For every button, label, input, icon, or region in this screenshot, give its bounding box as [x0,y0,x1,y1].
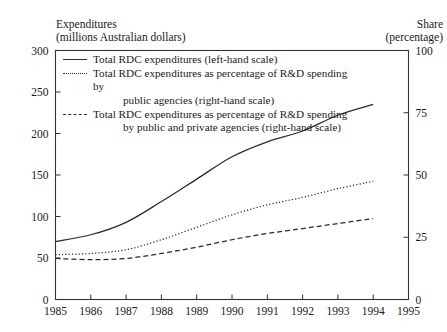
x-axis-tick-label: 1989 [185,305,208,317]
chart-legend: Total RDC expenditures (left-hand scale)… [62,53,362,135]
x-axis-tick-label: 1988 [150,305,173,317]
legend-key-dashed-line-icon [62,108,88,121]
x-axis-tick-label: 1990 [221,305,244,317]
y-axis-left-tick-label: 250 [31,86,49,98]
x-axis-tick-label: 1987 [115,305,138,317]
y-axis-left-tick-label: 150 [31,169,49,181]
legend-label: Total RDC expenditures (left-hand scale) [93,53,277,66]
legend-item: Total RDC expenditures (left-hand scale) [62,53,362,66]
plot-area: 050100150200250300 0255075100 1985198619… [0,0,447,332]
legend-label: Total RDC expenditures as percentage of … [93,108,347,134]
x-axis-tick-label: 1986 [79,305,102,317]
y-axis-left-tick-label: 300 [31,45,49,57]
legend-key-solid-line-icon [62,53,88,66]
legend-label-line1: Total RDC expenditures as percentage of … [93,67,347,92]
x-axis-labels: 1985198619871988198919901991199219931994… [44,305,420,317]
y-axis-left-tick-label: 100 [31,211,49,223]
legend-label-line2: public agencies (right-hand scale) [93,94,361,107]
x-axis-tick-label: 1993 [326,305,349,317]
y-axis-left-ticks [56,92,61,258]
y-axis-right-labels: 0255075100 [416,45,434,306]
x-axis-tick-label: 1985 [44,305,67,317]
x-axis-tick-label: 1994 [362,305,385,317]
x-axis-tick-label: 1995 [397,305,420,317]
x-axis-tick-label: 1992 [291,305,314,317]
y-axis-right-tick-label: 75 [416,107,428,119]
series-line-dashed [56,219,374,260]
legend-item: Total RDC expenditures as percentage of … [62,108,362,134]
legend-label-line2: by public and private agencies (right-ha… [93,121,347,134]
chart-figure: Expenditures (millions Australian dollar… [0,0,447,332]
y-axis-left-labels: 050100150200250300 [31,45,49,306]
legend-label-line1: Total RDC expenditures (left-hand scale) [93,53,277,65]
y-axis-right-ticks [404,113,409,238]
legend-key-dotted-line-icon [62,67,88,80]
x-axis-tick-label: 1991 [256,305,279,317]
legend-label-line1: Total RDC expenditures as percentage of … [93,108,347,120]
y-axis-right-tick-label: 25 [416,231,428,243]
y-axis-left-tick-label: 200 [31,128,49,140]
y-axis-left-tick-label: 50 [37,252,49,264]
legend-label: Total RDC expenditures as percentage of … [93,67,361,107]
x-axis-ticks [91,295,373,300]
line-chart-canvas: 050100150200250300 0255075100 1985198619… [0,0,447,332]
legend-item: Total RDC expenditures as percentage of … [62,67,362,107]
y-axis-right-tick-label: 100 [416,45,434,57]
y-axis-right-tick-label: 50 [416,169,428,181]
